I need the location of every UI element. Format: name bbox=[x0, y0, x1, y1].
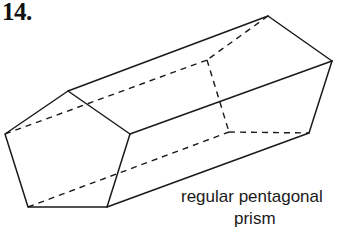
front-face bbox=[5, 91, 130, 207]
hidden-back-bottom bbox=[229, 132, 309, 133]
back-edge-right bbox=[309, 61, 332, 133]
hidden-edge-left bbox=[5, 60, 207, 134]
back-edge-top-right bbox=[268, 16, 332, 61]
edge-right bbox=[130, 61, 332, 134]
caption-line-1: regular pentagonal bbox=[181, 187, 323, 207]
edge-top bbox=[68, 16, 268, 91]
hidden-back-top-left bbox=[207, 16, 268, 60]
hidden-back-left bbox=[207, 60, 229, 132]
caption-line-2: prism bbox=[234, 209, 276, 229]
